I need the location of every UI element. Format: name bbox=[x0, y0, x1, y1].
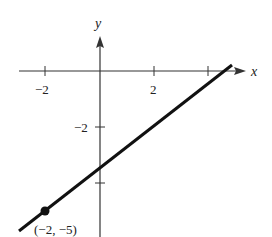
x-tick-label: 2 bbox=[150, 82, 157, 97]
data-line bbox=[19, 65, 232, 231]
y-axis-label: y bbox=[93, 16, 102, 31]
x-axis-label: x bbox=[250, 64, 258, 79]
chart: x y −2 2 −2 (−2, −5) bbox=[0, 0, 272, 237]
x-tick-label: −2 bbox=[35, 82, 49, 97]
data-point bbox=[41, 207, 50, 216]
y-tick-label: −2 bbox=[74, 120, 88, 135]
point-label: (−2, −5) bbox=[34, 222, 77, 237]
